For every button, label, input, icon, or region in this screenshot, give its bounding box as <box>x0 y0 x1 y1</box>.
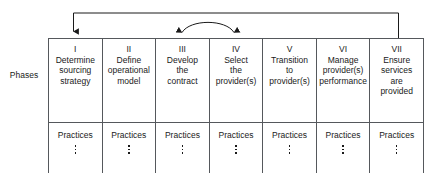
vertical-ellipsis-icon <box>49 145 102 154</box>
vertical-ellipsis-icon <box>370 145 423 154</box>
diagram-canvas: Phases I Determine <box>0 0 435 173</box>
practices-cell-5[interactable]: Practices <box>263 123 317 174</box>
practices-label: Practices <box>263 130 316 141</box>
vertical-ellipsis-icon <box>317 145 370 154</box>
phase-title-line: Ensure <box>371 55 422 66</box>
phase-cell-6[interactable]: VI Manage provider(s) performance <box>316 39 370 123</box>
phase-title-line: Transition <box>264 55 315 66</box>
practices-label: Practices <box>103 130 156 141</box>
phase-cell-1[interactable]: I Determine sourcing strategy <box>49 39 103 123</box>
phase-title-line: contract <box>157 76 208 87</box>
phase-title-line: are <box>371 76 422 87</box>
phase-title-line: to <box>264 65 315 76</box>
phase-cell-5[interactable]: V Transition to provider(s) <box>263 39 317 123</box>
phase-definitions-row: I Determine sourcing strategy II Define … <box>49 39 424 123</box>
phase-cell-2[interactable]: II Define operational model <box>102 39 156 123</box>
practices-cell-7[interactable]: Practices <box>370 123 424 174</box>
phases-table: I Determine sourcing strategy II Define … <box>48 38 424 173</box>
practices-cell-3[interactable]: Practices <box>156 123 210 174</box>
practices-label: Practices <box>317 130 370 141</box>
phase-title-line: model <box>104 76 155 87</box>
phase-numeral: III <box>157 44 208 55</box>
phase-title-line: provider(s) <box>264 76 315 87</box>
phase-title-line: provided <box>371 86 422 97</box>
phase-title-line: Define <box>104 55 155 66</box>
practices-label: Practices <box>156 130 209 141</box>
practices-cell-1[interactable]: Practices <box>49 123 103 174</box>
phase-title-line: provider(s) <box>318 65 369 76</box>
vertical-ellipsis-icon <box>210 145 263 154</box>
practices-cell-4[interactable]: Practices <box>209 123 263 174</box>
feedback-loop-arrow <box>74 13 399 38</box>
phase-title: Define operational model <box>104 55 155 87</box>
phase-title: Select the provider(s) <box>211 55 262 87</box>
vertical-ellipsis-icon <box>103 145 156 154</box>
phase-title-line: Manage <box>318 55 369 66</box>
iteration-arrow <box>182 22 234 32</box>
phase-numeral: II <box>104 44 155 55</box>
vertical-ellipsis-icon <box>156 145 209 154</box>
phase-title-line: strategy <box>50 76 101 87</box>
phase-numeral: IV <box>211 44 262 55</box>
phase-title-line: provider(s) <box>211 76 262 87</box>
phase-title: Transition to provider(s) <box>264 55 315 87</box>
practices-label: Practices <box>49 130 102 141</box>
practices-label: Practices <box>210 130 263 141</box>
phase-title-line: performance <box>318 76 369 87</box>
phase-numeral: VII <box>371 44 422 55</box>
practices-row: Practices Practices Practices Practices <box>49 123 424 174</box>
phase-title: Determine sourcing strategy <box>50 55 101 87</box>
phase-title-line: operational <box>104 65 155 76</box>
phase-title-line: Develop <box>157 55 208 66</box>
phase-title-line: services <box>371 65 422 76</box>
phase-numeral: I <box>50 44 101 55</box>
practices-label: Practices <box>370 130 423 141</box>
practices-cell-2[interactable]: Practices <box>102 123 156 174</box>
phase-cell-4[interactable]: IV Select the provider(s) <box>209 39 263 123</box>
phase-cell-3[interactable]: III Develop the contract <box>156 39 210 123</box>
phase-title-line: sourcing <box>50 65 101 76</box>
phase-title-line: Determine <box>50 55 101 66</box>
vertical-ellipsis-icon <box>263 145 316 154</box>
phase-numeral: V <box>264 44 315 55</box>
phase-title-line: the <box>157 65 208 76</box>
phase-cell-7[interactable]: VII Ensure services are provided <box>370 39 424 123</box>
practices-cell-6[interactable]: Practices <box>316 123 370 174</box>
phase-title: Ensure services are provided <box>371 55 422 97</box>
phase-title: Develop the contract <box>157 55 208 87</box>
phase-title: Manage provider(s) performance <box>318 55 369 87</box>
phase-numeral: VI <box>318 44 369 55</box>
phase-title-line: Select <box>211 55 262 66</box>
phases-axis-label: Phases <box>0 70 48 81</box>
phase-title-line: the <box>211 65 262 76</box>
